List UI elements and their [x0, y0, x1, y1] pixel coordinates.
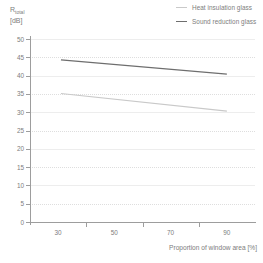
x-axis-title: Proportion of window area [%] — [169, 243, 257, 252]
series-line-sound-reduction-glass — [61, 60, 227, 74]
series-line-heat-insulation-glass — [61, 94, 227, 112]
series-layer — [0, 0, 263, 263]
chart-root: Heat insulation glass Sound reduction gl… — [0, 0, 263, 263]
